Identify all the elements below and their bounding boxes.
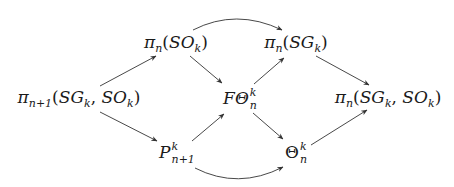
node-f-theta: FΘkn (223, 87, 257, 111)
edge-f-theta-to-pi-sg (254, 58, 284, 84)
edge-source-to-p (100, 112, 157, 141)
node-p: Pkn+1 (159, 141, 195, 165)
edge-pi-so-to-pi-sg (193, 19, 282, 30)
node-pi-so: πn(SOk) (144, 34, 208, 54)
node-pi-sg: πn(SGk) (264, 34, 327, 54)
node-source: πn+1(SGk, SOk) (18, 89, 141, 109)
edge-pi-sg-to-target (316, 56, 369, 85)
edge-p-to-f-theta (192, 114, 224, 141)
edge-source-to-pi-so (100, 56, 156, 86)
node-theta: Θkn (285, 141, 307, 165)
edge-f-theta-to-theta (253, 113, 283, 139)
commutative-diagram: πn+1(SGk, SOk) πn(SOk) πn(SGk) FΘkn πn(S… (0, 0, 454, 187)
edge-pi-so-to-f-theta (190, 56, 222, 83)
node-target: πn(SGk, SOk) (335, 89, 442, 109)
edge-theta-to-target (311, 110, 367, 145)
edge-p-to-theta (195, 167, 283, 179)
